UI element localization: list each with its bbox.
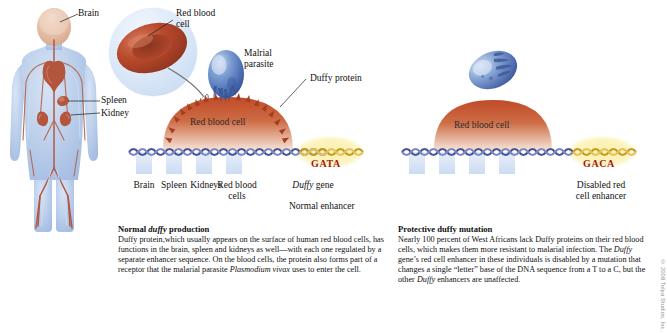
label-duffy-protein: Duffy protein [310,73,362,84]
sequence-gata: GATA [311,158,341,169]
caption-right-heading: Protective duffy mutation [398,225,646,235]
track-label-red-blood-cells: Red blood cells [208,180,266,202]
right-red-blood-cell-dome [434,44,552,150]
dna-double-helix-right [402,149,636,155]
caption-left-body-2: uses to enter the cell. [290,265,361,274]
track-label-duffy-gene: Duffy gene [277,180,349,191]
malarial-parasite-detached [463,44,523,96]
malarial-parasite-attached [208,50,244,103]
track-label-duffy-italic: Duffy [292,180,313,190]
body-leader-lines [60,14,100,115]
magnify-arrow [168,68,206,100]
track-label-gene-rest: gene [313,180,333,190]
label-malarial-parasite: Malrial parasite [244,48,274,70]
caption-left-heading-post: production [167,224,210,234]
caption-right-body-3: enhancers are unaffected. [435,275,520,284]
copyright-credit: © 2008 Tolpa Studios, Inc. [660,259,666,331]
caption-left-body-italic: Plasmodium vivax [230,265,290,274]
caption-left-heading-pre: Normal [118,224,148,234]
caption-right-body-italic-2: Duffy [417,275,435,284]
label-spleen: Spleen [101,95,127,106]
label-red-blood-cell-right: Red blood cell [454,120,509,131]
label-disabled-enhancer: Disabled red cell enhancer [559,180,643,202]
caption-right-body-1: Nearly 100 percent of West Africans lack… [398,235,644,254]
human-body-illustration [10,8,98,232]
caption-left-heading: Normal duffy production [118,225,386,235]
caption-right: Protective duffy mutation Nearly 100 per… [398,225,646,285]
dna-double-helix-left [129,149,363,155]
caption-right-body-italic-1: Duffy [614,245,632,254]
label-red-blood-cell-left: Red blood cell [190,117,245,128]
label-kidney: Kidney [101,108,129,119]
caption-left-heading-italic: duffy [148,224,166,234]
sequence-gaca: GACA [583,158,615,169]
label-brain: Brain [78,8,99,19]
label-normal-enhancer: Normal enhancer [289,201,355,212]
label-red-blood-cell-callout: Red blood cell [176,8,215,30]
caption-left: Normal duffy production Duffy protein,wh… [118,225,386,275]
duffy-diagram-figure: Brain Spleen Kidney Red blood cell Malri… [0,0,667,333]
